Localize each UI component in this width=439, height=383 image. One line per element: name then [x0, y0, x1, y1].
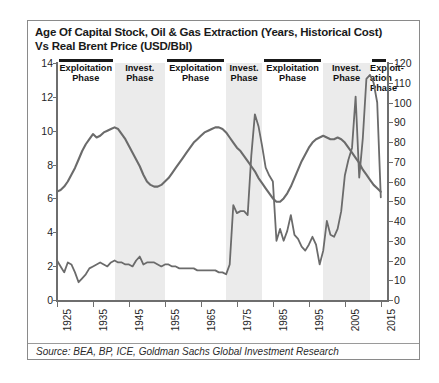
y2-tick-mark — [389, 142, 393, 143]
x-tick-label: 1975 — [242, 309, 253, 331]
series-lines — [57, 63, 388, 300]
y2-tick-mark — [389, 103, 393, 104]
y2-tick-label: 80 — [394, 136, 406, 148]
plot-area: 02468101214 0102030405060708090100110120 — [57, 63, 388, 300]
y2-tick-label: 90 — [394, 116, 406, 128]
y2-tick-mark — [389, 162, 393, 163]
x-tick-mark — [93, 302, 94, 307]
phase-marker-bar — [167, 59, 224, 62]
y-tick-label: 12 — [41, 91, 53, 103]
x-tick-mark — [345, 302, 346, 307]
y2-tick-label: 0 — [394, 294, 400, 306]
chart-title-line1: Age Of Capital Stock, Oil & Gas Extracti… — [35, 25, 415, 39]
x-tick-mark — [309, 302, 310, 307]
y-tick-mark — [53, 300, 57, 301]
y2-tick-label: 100 — [394, 97, 412, 109]
y-tick-label: 2 — [47, 260, 53, 272]
y-tick-label: 0 — [47, 294, 53, 306]
y-tick-label: 10 — [41, 125, 53, 137]
x-tick-mark — [57, 302, 58, 307]
y-tick-label: 8 — [47, 159, 53, 171]
x-tick-label: 1935 — [98, 309, 109, 331]
x-tick-mark — [273, 302, 274, 307]
y2-tick-label: 60 — [394, 176, 406, 188]
x-tick-label: 1985 — [278, 309, 289, 331]
x-tick-label: 1955 — [170, 309, 181, 331]
y2-tick-label: 10 — [394, 274, 406, 286]
x-tick-label: 1925 — [62, 309, 73, 331]
y2-tick-mark — [389, 300, 393, 301]
y2-tick-label: 20 — [394, 255, 406, 267]
x-tick-mark — [201, 302, 202, 307]
x-tick-mark — [165, 302, 166, 307]
y2-tick-mark — [389, 261, 393, 262]
chart-title-line2: Vs Real Brent Price (USD/Bbl) — [35, 39, 415, 53]
phase-marker-bar — [372, 59, 386, 62]
y2-tick-mark — [389, 63, 393, 64]
y2-tick-label: 70 — [394, 156, 406, 168]
source-divider — [28, 343, 419, 344]
y2-tick-label: 30 — [394, 235, 406, 247]
x-tick-mark — [129, 302, 130, 307]
x-tick-label: 2005 — [350, 309, 361, 331]
y-tick-label: 14 — [41, 57, 53, 69]
y-tick-label: 4 — [47, 226, 53, 238]
chart-screenshot: Age Of Capital Stock, Oil & Gas Extracti… — [0, 0, 439, 383]
series-line-brent-price — [57, 75, 381, 282]
y2-tick-mark — [389, 241, 393, 242]
phase-marker-bar — [264, 59, 321, 62]
x-tick-mark — [237, 302, 238, 307]
x-tick-label: 1945 — [134, 309, 145, 331]
y2-tick-label: 50 — [394, 195, 406, 207]
source-note: Source: BEA, BP, ICE, Goldman Sachs Glob… — [36, 346, 339, 357]
x-tick-mark — [381, 302, 382, 307]
series-line-capital-stock-age — [57, 127, 381, 201]
x-tick-label: 2015 — [386, 309, 397, 331]
y2-tick-mark — [389, 83, 393, 84]
y2-tick-label: 110 — [394, 77, 411, 89]
y2-tick-label: 120 — [394, 57, 412, 69]
y2-tick-mark — [389, 221, 393, 222]
chart-title: Age Of Capital Stock, Oil & Gas Extracti… — [35, 25, 415, 53]
y2-tick-mark — [389, 201, 393, 202]
y2-tick-mark — [389, 122, 393, 123]
x-tick-label: 1965 — [206, 309, 217, 331]
y2-tick-mark — [389, 182, 393, 183]
y-tick-label: 6 — [47, 192, 53, 204]
x-axis — [56, 300, 389, 302]
y2-tick-mark — [389, 280, 393, 281]
phase-marker-bar — [59, 59, 113, 62]
y2-tick-label: 40 — [394, 215, 406, 227]
x-tick-label: 1995 — [314, 309, 325, 331]
